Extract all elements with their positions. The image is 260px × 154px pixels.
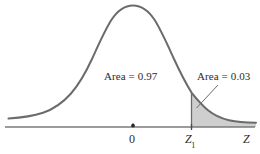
area-right-label: Area = 0.03 xyxy=(197,71,250,82)
z1-subscript: 1 xyxy=(191,141,195,150)
normal-distribution-curve xyxy=(9,5,257,122)
axis-tick-label-zero: 0 xyxy=(129,133,135,145)
axis-tick-label-z1: Z1 xyxy=(185,133,196,148)
area-right-leader-line xyxy=(197,85,219,108)
area-left-label: Area = 0.97 xyxy=(104,71,157,82)
normal-curve-figure: Area = 0.97 Area = 0.03 0 Z1 Z xyxy=(0,0,260,154)
axis-name-label: Z xyxy=(243,133,250,145)
zero-point-dot xyxy=(131,124,135,128)
